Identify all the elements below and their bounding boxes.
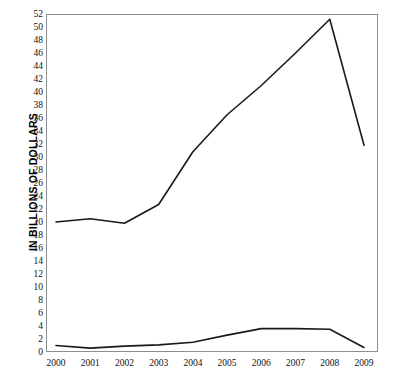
line-chart: IN BILLIONS OF DOLLARS 02468101214161820… bbox=[0, 0, 393, 384]
x-tick-label: 2009 bbox=[344, 358, 384, 368]
x-axis-tick-labels: 2000200120022003200420052006200720082009 bbox=[0, 0, 393, 384]
